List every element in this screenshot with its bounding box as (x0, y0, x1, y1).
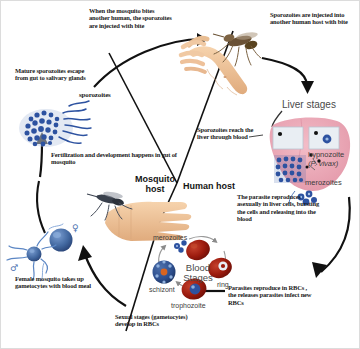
annotation-parasites-reproduce-rbc: Parasites reproduce in RBCs , the releas… (228, 284, 314, 306)
schizont-stage (153, 260, 176, 283)
liver-stages-label: Liver stages (282, 99, 336, 110)
annotation-sporozoites-reach-liver: Sporozoites reach the liver through bloo… (197, 126, 255, 141)
hypnozoite-label: hypnozoite (308, 150, 344, 159)
annotation-parasite-reproduces-liver: The parasite reproduces asexually in liv… (237, 193, 325, 222)
human-host-label: Human host (183, 181, 235, 191)
annotation-fertilization: Fertilization and development happens in… (51, 151, 177, 166)
annotation-mosquito-bites-human: When the mosquito bites another human, t… (89, 7, 175, 29)
trophozoite-label: trophozoite (171, 302, 206, 309)
merozoites-liver-label: merozoites (305, 178, 342, 187)
rbc-infected-top (183, 237, 212, 263)
annotation-sexual-stages: Sexual stages (gametocytes) develop in R… (115, 313, 207, 328)
oocyst-sporozoite-mass (19, 101, 91, 147)
blood-stages-label: Blood Stages (179, 263, 217, 284)
malaria-life-cycle-diagram: When the mosquito bites another human, t… (0, 0, 360, 349)
schizont-label: schizont (149, 286, 175, 293)
merozoites-blood-label: merozoites (153, 234, 187, 241)
merozoites-blood (174, 240, 187, 252)
annotation-mature-sporozoites: Mature sporozoites escape from gut to sa… (15, 67, 95, 82)
liver-schizont-cell (274, 155, 306, 183)
annotation-sporozoites-injected: Sporozoites are injected into another hu… (270, 11, 352, 26)
female-gametocyte-symbol: ♀ (72, 223, 79, 233)
arrow-injection-to-liver (262, 58, 314, 94)
ring-label: ring (217, 281, 229, 288)
male-gametocyte-symbol: ♂ (10, 263, 18, 273)
arrow-mosquito-to-gut-tail (37, 181, 45, 233)
annotation-female-mosquito-gametocytes: Female mosquito takes up gametocytes wit… (15, 275, 109, 290)
human-arm-illustration (181, 38, 247, 95)
label-sporozoites: sporozoites (79, 92, 111, 100)
mosquito-host-label: Mosquito host (132, 174, 178, 195)
hypnozoite-species-label: (P. vivax) (308, 159, 338, 168)
